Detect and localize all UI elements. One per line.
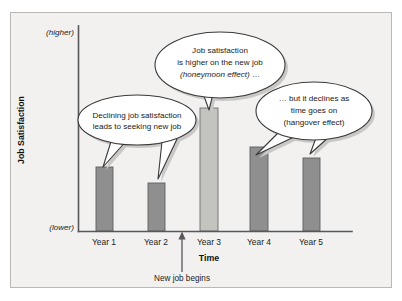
declining-line-1: Declining job satisfaction [92,111,181,120]
honeymoon-line-3-tail: … [250,70,260,79]
x-tick-year-4: Year 4 [247,237,271,247]
hangover-line-3: (hangover effect) [283,118,344,127]
y-axis-title: Job Satisfaction [16,96,26,164]
x-axis-title: Time [199,253,219,263]
honeymoon-line-3-italic: (honeymoon effect) [180,70,250,79]
x-tick-year-1: Year 1 [92,237,116,247]
x-tick-year-3: Year 3 [197,237,221,247]
hangover-line-2: time goes on [291,106,337,115]
x-tick-year-2: Year 2 [144,237,168,247]
new-job-label: New job begins [154,274,210,283]
bar-year-2 [148,183,165,231]
honeymoon-line-1: Job satisfaction [192,46,248,55]
y-axis-low-label: (lower) [49,223,74,232]
honeymoon-line-2: is higher on the new job [177,58,263,67]
hangover-line-1: … but it declines as [279,94,350,103]
figure-container: (higher) (lower) Job Satisfaction Year 1… [0,0,402,301]
bar-year-4 [250,147,268,231]
y-axis-high-label: (higher) [46,28,74,37]
job-satisfaction-chart: (higher) (lower) Job Satisfaction Year 1… [0,0,402,301]
bar-year-5 [303,158,320,231]
bar-year-1 [96,167,113,231]
bar-year-3 [200,108,218,231]
declining-bubble [78,95,196,145]
x-tick-year-5: Year 5 [299,237,323,247]
honeymoon-line-3: (honeymoon effect) … [180,70,260,79]
declining-line-2: leads to seeking new job [93,122,182,131]
